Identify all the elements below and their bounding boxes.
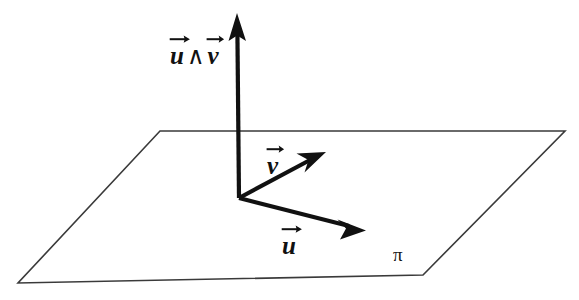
overarrow-icon (206, 35, 224, 43)
label-vector-v: v (267, 144, 278, 178)
label-vector-v-arrowed: v (267, 144, 278, 178)
vector-u (239, 198, 366, 240)
label-cross-product-u-glyph: u (170, 43, 184, 68)
vector-v (239, 152, 326, 198)
label-vector-v-glyph: v (267, 153, 278, 178)
vector-cross-product-shaft (237, 32, 239, 198)
label-cross-product-v-glyph: v (207, 43, 218, 68)
label-cross-product-u: u (170, 34, 184, 68)
overarrow-icon (266, 145, 284, 153)
vector-v-arrowhead (297, 152, 327, 173)
label-plane-pi: π (393, 245, 403, 264)
label-vector-u-glyph: u (282, 233, 296, 258)
label-vector-u-arrowed: u (282, 224, 296, 258)
overarrow-icon (169, 35, 190, 43)
label-cross-product-v: v (207, 34, 218, 68)
label-cross-product-operator: ∧ (184, 44, 208, 68)
label-cross-product: u ∧ v (170, 34, 219, 68)
overarrow-icon (281, 225, 302, 233)
vector-cross-product (229, 13, 247, 198)
vector-diagram-figure: u ∧ v v u π (0, 0, 579, 300)
vector-u-arrowhead (338, 220, 367, 240)
plane-pi-outline (18, 131, 565, 283)
label-vector-u: u (282, 224, 296, 258)
vector-u-shaft (239, 198, 349, 226)
